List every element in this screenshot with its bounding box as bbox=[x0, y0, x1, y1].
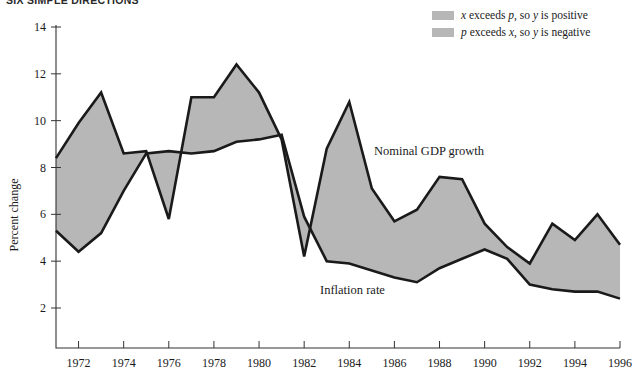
y-axis-title: Percent change bbox=[7, 179, 21, 252]
y-tick-label: 6 bbox=[40, 207, 46, 221]
y-tick-label: 10 bbox=[34, 114, 46, 128]
y-tick-label: 4 bbox=[40, 254, 46, 268]
x-tick-label: 1974 bbox=[112, 356, 136, 370]
x-tick-label: 1976 bbox=[157, 356, 181, 370]
x-tick-label: 1992 bbox=[518, 356, 542, 370]
y-tick-label: 2 bbox=[40, 301, 46, 315]
series-label-inflation-rate: Inflation rate bbox=[320, 283, 385, 297]
x-tick-label: 1986 bbox=[382, 356, 406, 370]
x-tick-label: 1988 bbox=[428, 356, 452, 370]
chart-plot-area: 2468101214 19721974197619781980198219841… bbox=[0, 0, 637, 387]
y-axis-tick-labels: 2468101214 bbox=[34, 20, 46, 315]
x-axis-tick-labels: 1972197419761978198019821984198619881990… bbox=[67, 356, 632, 370]
x-tick-label: 1982 bbox=[292, 356, 316, 370]
x-tick-label: 1990 bbox=[473, 356, 497, 370]
x-tick-label: 1996 bbox=[608, 356, 632, 370]
x-tick-label: 1972 bbox=[67, 356, 91, 370]
x-tick-label: 1980 bbox=[247, 356, 271, 370]
x-tick-label: 1984 bbox=[337, 356, 361, 370]
x-tick-label: 1978 bbox=[202, 356, 226, 370]
y-tick-label: 8 bbox=[40, 161, 46, 175]
x-tick-label: 1994 bbox=[563, 356, 587, 370]
series-label-nominal-gdp-growth: Nominal GDP growth bbox=[374, 144, 485, 158]
figure-root: SIX SIMPLE DIRECTIONS x exceeds p, so y … bbox=[0, 0, 637, 387]
y-tick-label: 12 bbox=[34, 67, 46, 81]
y-tick-label: 14 bbox=[34, 20, 46, 34]
